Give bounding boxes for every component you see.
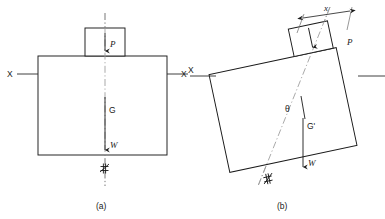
panel-b-axis-label-left: X <box>188 65 194 75</box>
panel-b-caption: (b) <box>277 201 288 211</box>
panel-a-axis-label-right: X <box>181 69 187 79</box>
panel-b-load-label: P <box>346 37 353 47</box>
panel-b-centroid-label: G' <box>307 121 316 131</box>
stability-diagram: X X P G W (a) <box>0 0 385 219</box>
panel-b-angle-label: θ <box>285 104 290 114</box>
panel-a-main-body <box>38 56 167 155</box>
panel-a-load-label: P <box>109 39 116 49</box>
figure-root: X X P G W (a) <box>0 0 385 219</box>
panel-a-caption: (a) <box>96 201 107 211</box>
panel-a-centroid-label: G <box>109 105 116 115</box>
panel-b-offset-label: x <box>323 3 328 13</box>
panel-a-axis-label-left: X <box>7 69 13 79</box>
